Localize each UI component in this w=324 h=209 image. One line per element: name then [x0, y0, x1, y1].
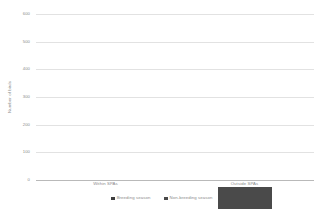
- y-tick-label: 0: [28, 178, 30, 182]
- gridline: [36, 69, 314, 70]
- plot-area: [36, 14, 314, 180]
- y-axis-tick-labels: 0100200300400500600: [0, 14, 34, 180]
- gridline: [36, 14, 314, 15]
- gridline: [36, 125, 314, 126]
- y-tick-label: 100: [23, 150, 30, 154]
- legend-item[interactable]: Breeding season: [111, 196, 150, 200]
- x-axis-line: [36, 180, 314, 181]
- chart-container: Number of birds 0100200300400500600 With…: [0, 0, 324, 209]
- x-tick-label: Outside SPAs: [231, 182, 259, 186]
- legend-label: Non-breeding season: [170, 196, 213, 200]
- gridline: [36, 152, 314, 153]
- legend-swatch-icon: [111, 197, 114, 200]
- x-tick-label: Within SPAs: [93, 182, 118, 186]
- x-axis-tick-labels: Within SPAsOutside SPAs: [36, 182, 314, 192]
- gridline: [36, 42, 314, 43]
- legend-item[interactable]: Non-breeding season: [164, 196, 212, 200]
- chart-legend: Breeding seasonNon-breeding season: [0, 196, 324, 200]
- legend-label: Breeding season: [117, 196, 151, 200]
- y-tick-label: 600: [23, 12, 30, 16]
- y-tick-label: 200: [23, 123, 30, 127]
- y-tick-label: 300: [23, 95, 30, 99]
- y-tick-label: 500: [23, 40, 30, 44]
- y-tick-label: 400: [23, 67, 30, 71]
- legend-swatch-icon: [164, 197, 167, 200]
- gridline: [36, 97, 314, 98]
